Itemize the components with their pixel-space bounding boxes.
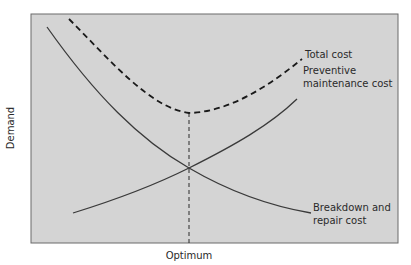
y-axis-label: Demand <box>5 107 16 149</box>
preventive-label-line2: maintenance cost <box>303 78 393 89</box>
x-axis-label: Optimum <box>166 250 213 261</box>
breakdown-label-line2: repair cost <box>313 215 366 226</box>
cost-tradeoff-chart: Total cost Preventive maintenance cost B… <box>0 0 411 265</box>
total-cost-label: Total cost <box>304 49 352 60</box>
breakdown-label-line1: Breakdown and <box>313 202 391 213</box>
preventive-label-line1: Preventive <box>303 65 356 76</box>
